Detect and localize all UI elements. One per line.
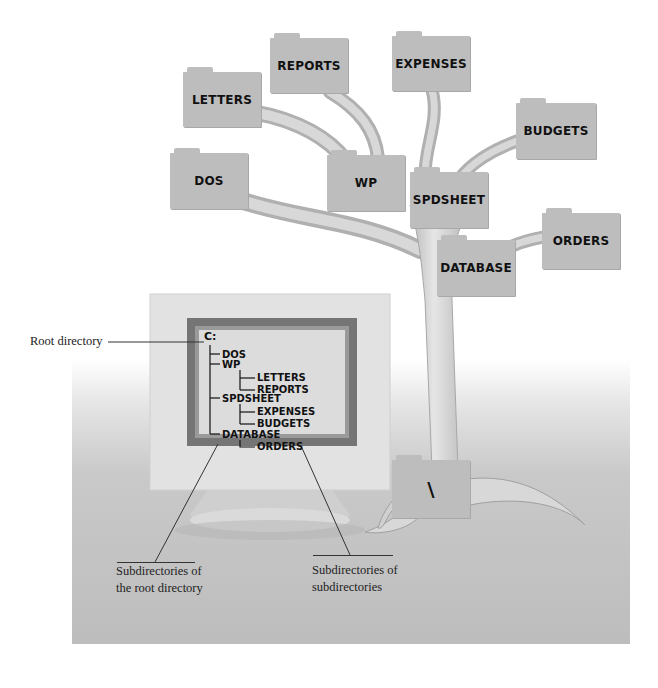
caption-sub-subdirs-line2: subdirectories (312, 579, 398, 596)
screen-dir-item: ORDERS (257, 441, 303, 452)
caption-sub-subdirs: Subdirectories of subdirectories (312, 562, 398, 596)
screen-dir-item: LETTERS (257, 372, 306, 383)
screen-dir-item: WP (222, 359, 240, 370)
caption-root-subdirs: Subdirectories of the root directory (116, 563, 203, 597)
caption-rule-sub-subdirs (313, 555, 393, 556)
screen-dir-item: BUDGETS (257, 418, 310, 429)
screen-dir-item: SPDSHEET (222, 393, 281, 404)
caption-sub-subdirs-line1: Subdirectories of (312, 562, 398, 579)
caption-root-subdirs-line1: Subdirectories of (116, 563, 203, 580)
caption-root-subdirs-line2: the root directory (116, 580, 203, 597)
caption-root-directory: Root directory (30, 333, 103, 350)
screen-dir-item: EXPENSES (257, 406, 315, 417)
screen-dir-item: DATABASE (222, 429, 280, 440)
screen-root-label: C: (204, 331, 216, 342)
